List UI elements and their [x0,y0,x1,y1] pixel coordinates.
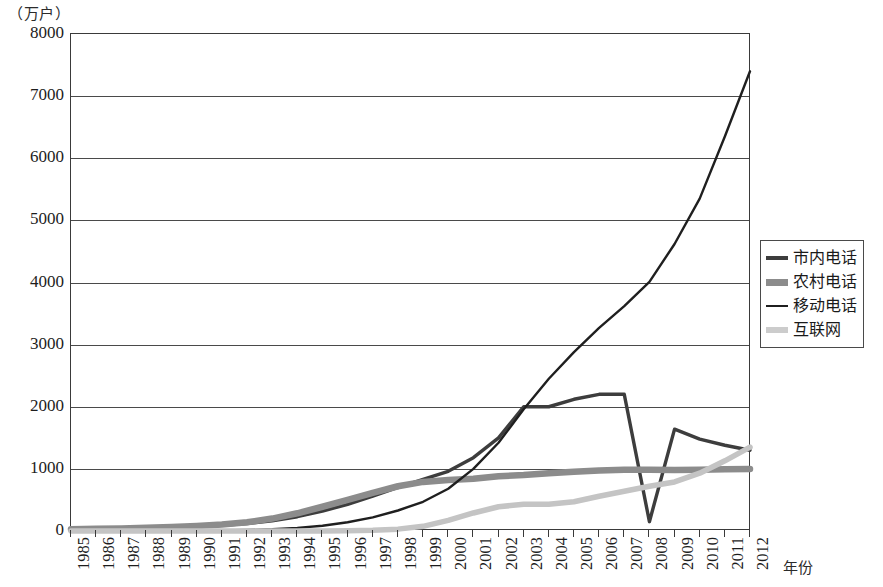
x-axis-tick [447,530,448,537]
x-axis-tick [724,530,725,537]
x-axis-tick-label: 1997 [378,537,394,570]
x-axis-tick-label: 1996 [353,537,369,570]
x-axis-tick [573,530,574,537]
x-axis-tick [95,530,96,537]
x-axis-tick-label: 1999 [428,537,444,570]
x-axis-ticks [70,530,750,537]
series-lines [71,34,751,531]
x-axis-tick [120,530,121,537]
legend-item[interactable]: 农村电话 [766,270,857,294]
y-axis-tick-label: 2000 [2,397,64,414]
x-axis-tick-label: 2010 [705,537,721,570]
y-axis-tick-label: 6000 [2,148,64,165]
y-axis-tick-label: 1000 [2,459,64,476]
x-axis-tick [498,530,499,537]
x-axis-tick-label: 1987 [126,537,142,570]
x-axis-tick [145,530,146,537]
legend-color-swatch [766,327,788,333]
x-axis-tick-label: 1991 [227,537,243,570]
x-axis-tick-label: 2000 [453,537,469,570]
x-axis-tick [221,530,222,537]
x-axis-tick [674,530,675,537]
y-axis-unit-caption: （万户） [8,2,70,23]
x-axis-tick-label: 2007 [629,537,645,570]
y-axis-tick-label: 3000 [2,335,64,352]
x-axis-tick [749,530,750,537]
legend-item-label: 市内电话 [793,250,857,266]
x-axis-tick-label: 1985 [76,537,92,570]
x-axis-tick-label: 2008 [654,537,670,570]
x-axis-tick-label: 1989 [177,537,193,570]
x-axis-tick [648,530,649,537]
legend-color-swatch [766,279,788,286]
x-axis-tick-label: 2004 [554,537,570,570]
x-axis-title: 年份 [783,556,813,577]
x-axis-tick-label: 2005 [579,537,595,570]
y-axis-tick-labels: 010002000300040005000600070008000 [0,33,64,530]
x-axis-tick-label: 2003 [529,537,545,570]
legend-color-swatch [766,305,788,307]
x-axis-tick [321,530,322,537]
x-axis-tick [623,530,624,537]
legend-color-swatch [766,256,788,259]
x-axis-tick [548,530,549,537]
x-axis-tick [523,530,524,537]
legend-item-label: 互联网 [793,322,841,338]
x-axis-tick [372,530,373,537]
x-axis-tick-label: 2002 [504,537,520,570]
x-axis-tick-label: 1992 [252,537,268,570]
x-axis-tick-label: 1995 [327,537,343,570]
x-axis-tick-label: 1988 [151,537,167,570]
x-axis-tick-label: 2009 [680,537,696,570]
y-axis-tick-label: 8000 [2,24,64,41]
x-axis-tick-label: 1998 [403,537,419,570]
legend-item-label: 农村电话 [793,274,857,290]
x-axis-tick [472,530,473,537]
line-chart: （万户） 010002000300040005000600070008000 1… [0,0,883,587]
x-axis-tick-label: 2006 [604,537,620,570]
legend-item-label: 移动电话 [793,298,857,314]
x-axis-tick [271,530,272,537]
x-axis-tick [296,530,297,537]
x-axis-tick [422,530,423,537]
x-axis-tick-label: 1993 [277,537,293,570]
x-axis-tick-label: 1990 [202,537,218,570]
x-axis-tick-label: 2012 [755,537,771,570]
y-axis-tick-label: 7000 [2,86,64,103]
x-axis-tick [246,530,247,537]
series-line [71,394,750,529]
chart-legend: 市内电话农村电话移动电话互联网 [760,240,864,348]
legend-item[interactable]: 互联网 [766,318,857,342]
y-axis-tick-label: 5000 [2,210,64,227]
x-axis-tick [699,530,700,537]
x-axis-tick-label: 2011 [730,537,746,569]
x-axis-tick-labels: 1985198619871988198919901991199219931994… [70,537,750,587]
y-axis-tick-label: 4000 [2,273,64,290]
x-axis-tick [397,530,398,537]
x-axis-tick-label: 1986 [101,537,117,570]
x-axis-tick-label: 2001 [478,537,494,570]
x-axis-tick [196,530,197,537]
x-axis-tick [347,530,348,537]
series-line [71,71,750,531]
legend-item[interactable]: 市内电话 [766,246,857,270]
x-axis-tick [171,530,172,537]
x-axis-tick [70,530,71,537]
legend-item[interactable]: 移动电话 [766,294,857,318]
x-axis-tick [598,530,599,537]
x-axis-tick-label: 1994 [302,537,318,570]
plot-area [70,33,750,530]
y-axis-tick-label: 0 [2,521,64,538]
